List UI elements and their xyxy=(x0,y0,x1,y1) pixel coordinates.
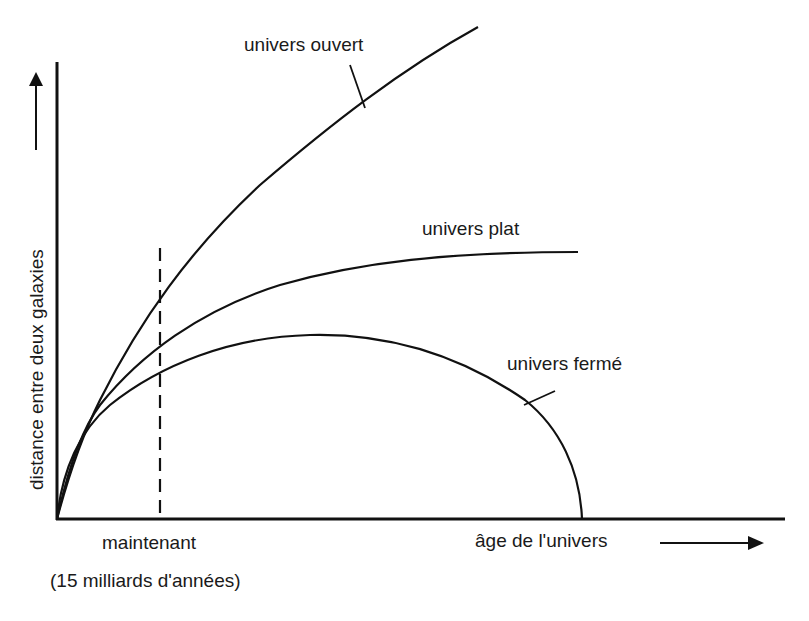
curve-closed-universe xyxy=(57,335,582,519)
curve-open-universe xyxy=(57,27,478,519)
x-axis-label: âge de l'univers xyxy=(475,530,608,552)
now-label: maintenant xyxy=(102,532,196,554)
y-axis-arrow-icon xyxy=(29,72,43,150)
leader-closed-universe xyxy=(524,391,555,405)
curve-flat-universe xyxy=(57,252,578,519)
x-axis-arrow-icon xyxy=(660,536,764,550)
leader-open-universe xyxy=(350,65,365,108)
cosmology-diagram xyxy=(0,0,809,621)
label-flat-universe: univers plat xyxy=(422,218,519,240)
now-age-label: (15 milliards d'années) xyxy=(50,570,241,592)
y-axis-label: distance entre deux galaxies xyxy=(26,249,48,490)
label-closed-universe: univers fermé xyxy=(507,353,622,375)
label-open-universe: univers ouvert xyxy=(244,34,363,56)
